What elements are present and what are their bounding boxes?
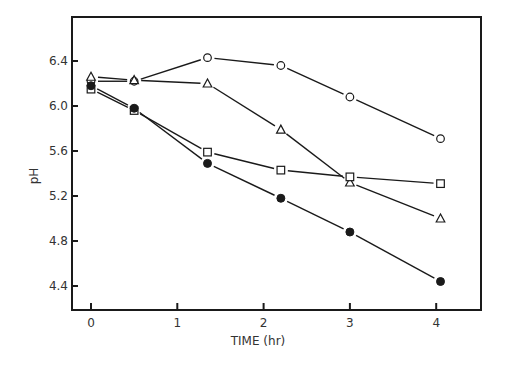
y-tick-label: 5.6 xyxy=(49,144,68,158)
series-line xyxy=(214,154,274,169)
x-axis-title: TIME (hr) xyxy=(230,334,286,348)
series-line xyxy=(140,112,202,159)
open-square-marker xyxy=(277,166,285,174)
y-tick-label: 4.4 xyxy=(49,279,68,293)
open-circle-marker xyxy=(437,135,445,143)
open-triangle-marker xyxy=(87,72,96,80)
filled-circle-marker xyxy=(87,82,95,90)
series-line xyxy=(141,60,201,79)
open-triangle-marker xyxy=(277,125,286,133)
open-square-marker xyxy=(437,180,445,188)
y-axis-title: pH xyxy=(27,168,41,185)
series-line xyxy=(97,92,128,107)
series-line xyxy=(356,185,434,216)
data-series xyxy=(87,54,445,286)
filled-circle-marker xyxy=(277,194,285,202)
series-line xyxy=(356,235,434,278)
series-open-circle xyxy=(87,54,444,143)
x-tick-label: 0 xyxy=(87,316,95,330)
x-axis-ticks: 01234 xyxy=(87,303,440,330)
series-line xyxy=(287,201,343,229)
plot-border xyxy=(72,17,481,310)
plot-frame xyxy=(72,17,481,310)
series-line xyxy=(213,87,275,126)
y-tick-label: 4.8 xyxy=(49,234,68,248)
filled-circle-marker xyxy=(437,278,445,286)
open-triangle-marker xyxy=(203,79,212,87)
open-square-marker xyxy=(346,173,354,181)
y-tick-label: 6.4 xyxy=(49,54,68,68)
series-line xyxy=(141,80,200,83)
open-triangle-marker xyxy=(436,214,445,222)
x-tick-label: 1 xyxy=(173,316,181,330)
open-square-marker xyxy=(204,148,212,156)
ph-vs-time-chart: 4.44.85.25.66.06.4 01234 TIME (hr) pH xyxy=(0,0,505,365)
x-tick-label: 4 xyxy=(432,316,440,330)
open-circle-marker xyxy=(204,54,212,62)
y-tick-label: 5.2 xyxy=(49,189,68,203)
y-axis-ticks: 4.44.85.25.66.06.4 xyxy=(49,54,78,293)
x-tick-label: 3 xyxy=(346,316,354,330)
filled-circle-marker xyxy=(204,159,212,167)
series-line xyxy=(214,58,273,64)
series-line xyxy=(97,89,128,105)
filled-circle-marker xyxy=(346,228,354,236)
filled-circle-marker xyxy=(130,104,138,112)
series-line xyxy=(357,177,434,183)
series-line xyxy=(214,166,275,195)
series-line xyxy=(356,100,434,136)
open-circle-marker xyxy=(346,93,354,101)
series-open-square xyxy=(87,85,444,187)
series-filled-circle xyxy=(87,82,445,286)
series-line xyxy=(98,77,127,79)
series-line xyxy=(287,68,343,94)
open-circle-marker xyxy=(277,62,285,70)
series-open-triangle xyxy=(87,72,445,222)
x-tick-label: 2 xyxy=(260,316,268,330)
y-tick-label: 6.0 xyxy=(49,99,68,113)
